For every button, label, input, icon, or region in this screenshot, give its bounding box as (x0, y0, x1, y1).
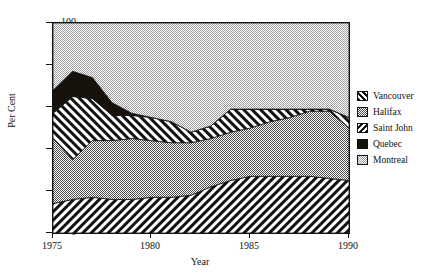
x-tick-label-1980: 1980 (130, 240, 170, 251)
legend-label-quebec: Quebec (373, 139, 402, 149)
legend-item-montreal[interactable]: Montreal (357, 152, 428, 168)
legend-label-montreal: Montreal (373, 155, 408, 165)
legend-swatch-quebec (357, 139, 368, 149)
legend-label-vancouver: Vancouver (373, 91, 414, 101)
legend: Vancouver Halifax Saint John Quebec Mont… (357, 88, 428, 168)
y-axis-title: Per Cent (6, 76, 17, 146)
legend-item-quebec[interactable]: Quebec (357, 136, 428, 152)
chart-root: Per Cent 100 80 60 40 20 0 1975 1980 198… (0, 0, 428, 273)
legend-swatch-halifax (357, 107, 368, 117)
x-tick-label-1990: 1990 (328, 240, 368, 251)
legend-label-saint-john: Saint John (373, 123, 413, 133)
legend-item-saint-john[interactable]: Saint John (357, 120, 428, 136)
legend-swatch-saint-john (357, 123, 368, 133)
plot-area (52, 22, 350, 234)
stacked-area-svg (53, 23, 349, 233)
x-axis-title: Year (0, 256, 400, 267)
x-tick-label-1985: 1985 (229, 240, 269, 251)
legend-swatch-vancouver (357, 91, 368, 101)
chart-title (30, 0, 360, 7)
x-tick-label-1975: 1975 (32, 240, 72, 251)
legend-swatch-montreal (357, 155, 368, 165)
legend-item-halifax[interactable]: Halifax (357, 104, 428, 120)
legend-item-vancouver[interactable]: Vancouver (357, 88, 428, 104)
legend-label-halifax: Halifax (373, 107, 402, 117)
